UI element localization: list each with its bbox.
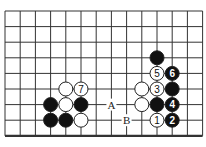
stone-circle — [44, 98, 58, 112]
move-number: 4 — [169, 99, 175, 110]
stone-circle — [135, 98, 149, 112]
stone-circle — [59, 98, 73, 112]
stone-circle — [74, 113, 88, 127]
white-stone — [135, 82, 149, 96]
move-number: 3 — [154, 84, 160, 95]
stone-circle — [74, 98, 88, 112]
move-number: 6 — [169, 68, 175, 79]
white-stone — [59, 82, 73, 96]
black-stone — [74, 98, 88, 112]
white-stone: 7 — [74, 82, 88, 96]
caption-fragment — [90, 142, 116, 147]
black-stone — [44, 98, 58, 112]
stone-circle — [59, 82, 73, 96]
black-stone — [150, 98, 164, 112]
black-stone: 4 — [165, 98, 179, 112]
go-board: AB 7563412 — [0, 0, 206, 147]
black-stone — [59, 113, 73, 127]
stone-circle — [150, 98, 164, 112]
black-stone — [165, 82, 179, 96]
stone-circle — [165, 82, 179, 96]
black-stone — [44, 113, 58, 127]
black-stone: 2 — [165, 113, 179, 127]
white-stone — [59, 98, 73, 112]
move-number: 1 — [154, 115, 160, 126]
stone-circle — [44, 113, 58, 127]
move-number: 7 — [78, 84, 84, 95]
point-markers: AB — [106, 99, 131, 127]
white-stone — [135, 98, 149, 112]
black-stone — [150, 51, 164, 65]
white-stone: 1 — [150, 113, 164, 127]
black-stone: 6 — [165, 66, 179, 80]
stone-circle — [59, 113, 73, 127]
white-stone: 3 — [150, 82, 164, 96]
move-number: 5 — [154, 68, 160, 79]
stone-circle — [135, 82, 149, 96]
stone-circle — [150, 51, 164, 65]
white-stone: 5 — [150, 66, 164, 80]
white-stone — [74, 113, 88, 127]
point-marker-a: A — [107, 99, 115, 111]
point-marker-b: B — [123, 114, 130, 126]
move-number: 2 — [169, 115, 175, 126]
